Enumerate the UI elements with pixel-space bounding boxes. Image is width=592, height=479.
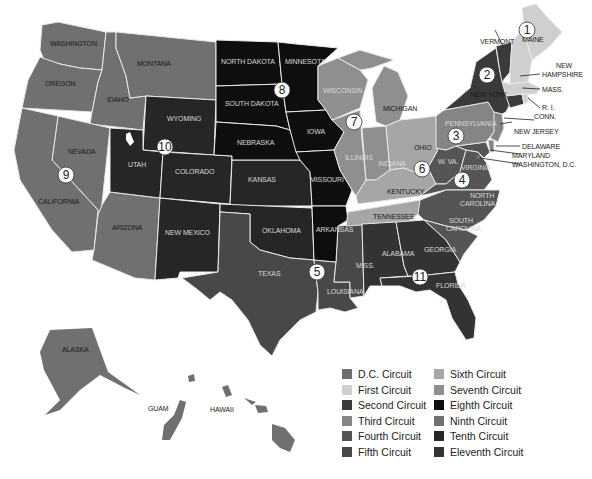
- legend-swatch: [434, 400, 444, 410]
- label-west-virginia: W. VA.: [438, 158, 458, 165]
- circuit-badge-7[interactable]: 7: [346, 114, 362, 130]
- label-minnesota: MINNESOTA: [285, 58, 326, 65]
- label-colorado: COLORADO: [175, 168, 215, 175]
- label-arizona: ARIZONA: [112, 224, 143, 231]
- legend-item-sixth-circuit: Sixth Circuit: [434, 368, 544, 380]
- label-washington-dc: WASHINGTON, D.C.: [512, 161, 576, 168]
- state-kansas[interactable]: [230, 160, 312, 206]
- legend-item-eleventh-circuit: Eleventh Circuit: [434, 446, 544, 458]
- label-rhode-island: R. I.: [542, 104, 554, 111]
- label-nebraska: NEBRASKA: [237, 139, 275, 146]
- label-kentucky: KENTUCKY: [387, 188, 425, 195]
- circuit-badge-5[interactable]: 5: [309, 264, 325, 280]
- label-delaware: DELAWARE: [522, 143, 560, 150]
- label-alabama: ALABAMA: [382, 250, 415, 257]
- label-new-hampshire-2: HAMPSHIRE: [542, 71, 583, 78]
- washington-dc[interactable]: [476, 155, 480, 159]
- legend-item-tenth-circuit: Tenth Circuit: [434, 430, 544, 442]
- svg-text:5: 5: [314, 265, 321, 279]
- label-north-carolina-2: CAROLINA: [460, 200, 495, 207]
- circuit-badge-2[interactable]: 2: [479, 67, 495, 83]
- legend-swatch: [342, 369, 352, 379]
- state-hawaii[interactable]: [188, 374, 295, 452]
- legend-label: D.C. Circuit: [358, 368, 412, 380]
- label-south-carolina-1: SOUTH: [449, 217, 473, 224]
- svg-text:7: 7: [351, 115, 358, 129]
- legend-item-first-circuit: First Circuit: [342, 384, 430, 396]
- legend-label: First Circuit: [358, 384, 411, 396]
- svg-text:1: 1: [524, 23, 531, 37]
- label-montana: MONTANA: [137, 60, 171, 67]
- legend-item-second-circuit: Second Circuit: [342, 399, 430, 411]
- state-alaska[interactable]: [40, 328, 140, 415]
- label-texas: TEXAS: [258, 270, 281, 277]
- label-mississippi: MISS.: [356, 262, 375, 269]
- state-wyoming[interactable]: [143, 96, 216, 155]
- label-kansas: KANSAS: [248, 176, 276, 183]
- label-ohio: OHIO: [414, 144, 432, 151]
- circuit-badge-11[interactable]: 11: [412, 269, 428, 285]
- legend-label: Sixth Circuit: [450, 368, 506, 380]
- label-south-carolina-2: CAROLINA: [446, 225, 481, 232]
- legend-item-third-circuit: Third Circuit: [342, 415, 430, 427]
- circuit-badge-9[interactable]: 9: [58, 167, 74, 183]
- label-louisiana: LOUISIANA: [327, 288, 364, 295]
- legend-label: Eleventh Circuit: [450, 446, 524, 458]
- label-guam: GUAM: [148, 405, 169, 412]
- svg-text:9: 9: [63, 168, 70, 182]
- label-washington: WASHINGTON: [50, 40, 97, 47]
- label-california: CALIFORNIA: [38, 198, 79, 205]
- legend-swatch: [434, 447, 444, 457]
- label-georgia: GEORGIA: [424, 246, 456, 253]
- state-indiana[interactable]: [362, 126, 390, 180]
- circuit-badge-10[interactable]: 10: [157, 139, 173, 155]
- state-new-mexico[interactable]: [155, 198, 220, 280]
- circuit-badge-3[interactable]: 3: [448, 128, 464, 144]
- label-new-hampshire-1: NEW: [556, 62, 573, 69]
- label-south-dakota: SOUTH DAKOTA: [225, 100, 279, 107]
- svg-text:4: 4: [459, 173, 466, 187]
- label-new-mexico: NEW MEXICO: [165, 229, 211, 236]
- label-tennessee: TENNESSEE: [373, 213, 415, 220]
- state-arizona[interactable]: [92, 192, 160, 280]
- legend-swatch: [342, 416, 352, 426]
- legend-item-seventh-circuit: Seventh Circuit: [434, 384, 544, 396]
- label-idaho: IDAHO: [107, 96, 129, 103]
- label-new-jersey: NEW JERSEY: [514, 128, 559, 135]
- svg-text:11: 11: [414, 270, 427, 284]
- legend-item-dc-circuit: D.C. Circuit: [342, 368, 430, 380]
- label-massachusetts: MASS.: [542, 86, 563, 93]
- svg-text:2: 2: [484, 68, 491, 82]
- label-connecticut: CONN.: [534, 113, 556, 120]
- svg-text:8: 8: [279, 83, 286, 97]
- svg-text:6: 6: [419, 162, 426, 176]
- label-oklahoma: OKLAHOMA: [262, 227, 301, 234]
- legend-swatch: [434, 431, 444, 441]
- state-michigan[interactable]: [372, 66, 408, 126]
- legend-swatch: [434, 369, 444, 379]
- label-florida: FLORIDA: [436, 282, 466, 289]
- legend-swatch: [342, 400, 352, 410]
- legend-label: Eighth Circuit: [450, 399, 512, 411]
- legend-swatch: [342, 385, 352, 395]
- legend-label: Third Circuit: [358, 415, 415, 427]
- label-hawaii: HAWAII: [210, 406, 234, 413]
- label-pennsylvania: PENNSYLVANIA: [445, 120, 497, 127]
- svg-text:10: 10: [158, 140, 172, 154]
- legend-label: Ninth Circuit: [450, 415, 507, 427]
- label-north-carolina-1: NORTH: [470, 192, 494, 199]
- circuit-badge-4[interactable]: 4: [454, 172, 470, 188]
- legend-label: Second Circuit: [358, 399, 426, 411]
- label-iowa: IOWA: [307, 128, 325, 135]
- legend-swatch: [434, 416, 444, 426]
- legend-label: Fourth Circuit: [358, 430, 421, 442]
- legend-label: Fifth Circuit: [358, 446, 411, 458]
- legend-swatch: [342, 431, 352, 441]
- state-colorado[interactable]: [160, 152, 232, 204]
- circuit-badge-6[interactable]: 6: [414, 161, 430, 177]
- legend: D.C. Circuit Sixth Circuit First Circuit…: [342, 368, 582, 458]
- circuit-badge-1[interactable]: 1: [519, 22, 535, 38]
- circuit-badge-8[interactable]: 8: [274, 82, 290, 98]
- label-oregon: OREGON: [45, 80, 76, 87]
- label-utah: UTAH: [128, 161, 146, 168]
